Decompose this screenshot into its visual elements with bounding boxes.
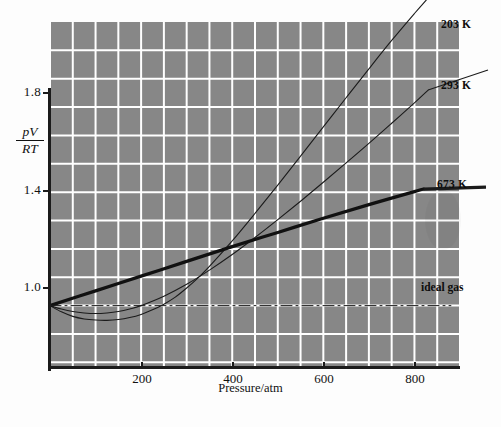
x-tick-400 — [232, 362, 234, 369]
y-axis-title: pV RT — [12, 125, 48, 156]
curve-293-k — [50, 90, 428, 313]
y-tick-label-1-4: 1.4 — [5, 182, 41, 198]
data-curves — [50, 22, 460, 368]
x-axis-line — [48, 366, 460, 369]
y-tick-label-1-0: 1.0 — [5, 279, 41, 295]
y-tick-1-8 — [43, 92, 50, 94]
curve-203-k — [50, 0, 428, 320]
series-label-673k: 673 K — [437, 178, 467, 190]
series-label-203k: 203 K — [441, 18, 471, 30]
series-label-293k: 293 K — [441, 79, 471, 91]
y-tick-1-4 — [43, 190, 50, 192]
y-tick-1-0 — [43, 287, 50, 289]
curve-673-k — [50, 189, 424, 306]
x-tick-800 — [414, 362, 416, 369]
x-tick-200 — [141, 362, 143, 369]
x-tick-600 — [323, 362, 325, 369]
series-label-ideal-gas: ideal gas — [421, 281, 464, 293]
plot-area — [50, 22, 460, 368]
figure-compressibility-chart: 1.8 1.4 1.0 pV RT 200 400 600 800 Pressu… — [0, 0, 501, 427]
y-tick-label-1-8: 1.8 — [5, 84, 41, 100]
y-axis-line — [48, 88, 51, 371]
y-axis-title-numerator: pV — [12, 125, 48, 139]
y-axis-title-denominator: RT — [12, 142, 48, 156]
x-axis-title: Pressure/atm — [0, 381, 501, 396]
